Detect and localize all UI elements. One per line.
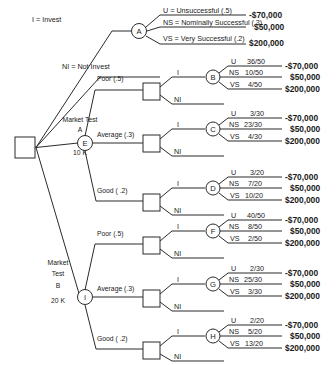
edge-poor-a-invest[interactable]: [160, 77, 205, 87]
payoff-C-u: -$70,000: [285, 113, 318, 123]
branch-label-invest-good-b: I: [177, 327, 179, 336]
branch-label-invest-poor-b: I: [177, 222, 179, 231]
survey-label-average-b: Average (.3): [97, 285, 134, 293]
outcome-key-H-vs: VS: [230, 339, 240, 348]
payoff-F-u: -$70,000: [285, 215, 318, 225]
payoff-A-vs: $200,000: [249, 38, 284, 48]
outcome-key-B-vs: VS: [230, 80, 240, 89]
outcome-frac-C-u: 3/30: [250, 109, 264, 118]
outcome-key-G-vs: VS: [230, 287, 240, 296]
edge-E-poor[interactable]: [85, 90, 143, 136]
payoff-B-ns: $50,000: [290, 72, 321, 82]
edge-A-ns[interactable]: [147, 27, 246, 31]
decision-node-average-b[interactable]: [143, 290, 160, 307]
payoff-G-ns: $50,000: [290, 279, 321, 289]
outcome-key-G-u: U: [231, 264, 236, 273]
payoff-A-ns: $50,000: [254, 22, 285, 32]
test-b-label-line1: Market: [48, 259, 69, 266]
outcome-frac-D-vs: 10/20: [245, 191, 263, 200]
outcome-key-C-u: U: [231, 109, 236, 118]
outcome-key-F-ns: NS: [229, 222, 239, 231]
outcome-key-H-ns: NS: [229, 327, 239, 336]
edge-I-good[interactable]: [85, 305, 143, 349]
payoff-G-vs: $200,000: [285, 291, 320, 301]
payoff-D-u: -$70,000: [285, 172, 318, 182]
outcome-key-B-u: U: [231, 57, 236, 66]
decision-tree-diagram: I = Invest A U = Unsuccessful (.5) NS = …: [0, 0, 336, 365]
outcome-frac-C-ns: 23/30: [244, 120, 262, 129]
test-b-label-line3: B: [56, 282, 61, 289]
decision-node-poor-b[interactable]: [143, 237, 160, 254]
outcome-key-C-vs: VS: [230, 132, 240, 141]
decision-node-average-a[interactable]: [143, 135, 160, 152]
legend-invest-label: I = Invest: [32, 15, 61, 24]
survey-label-poor-b: Poor (.5): [97, 230, 123, 238]
branch-label-invest-poor-a: I: [177, 68, 179, 77]
test-b-cost: 20 K: [51, 297, 65, 304]
edge-good-b-not-invest[interactable]: [160, 354, 224, 361]
outcome-frac-B-vs: 4/50: [248, 80, 262, 89]
test-a-label-line2: A: [78, 126, 83, 133]
outcome-key-D-ns: NS: [229, 179, 239, 188]
outcome-frac-H-ns: 5/20: [248, 327, 262, 336]
edge-average-a-invest[interactable]: [160, 129, 205, 139]
payoff-C-ns: $50,000: [290, 124, 321, 134]
payoff-C-vs: $200,000: [285, 136, 320, 146]
outcome-key-F-u: U: [231, 211, 236, 220]
decision-node-good-b[interactable]: [143, 342, 160, 359]
chance-node-D-letter: D: [210, 184, 216, 193]
edge-good-b-invest[interactable]: [160, 336, 205, 346]
branch-label-not-invest-average-a: NI: [174, 147, 181, 156]
payoff-F-vs: $200,000: [285, 238, 320, 248]
root-decision-node[interactable]: [15, 137, 35, 158]
edge-poor-a-not-invest[interactable]: [160, 95, 224, 104]
survey-label-average-a: Average (.3): [97, 131, 134, 139]
chance-node-I-letter: I: [84, 293, 86, 302]
payoff-D-ns: $50,000: [290, 183, 321, 193]
outcome-frac-F-vs: 2/50: [248, 234, 262, 243]
outcome-frac-G-ns: 25/30: [244, 275, 262, 284]
edge-I-poor[interactable]: [85, 244, 143, 290]
survey-label-good-b: Good ( .2): [97, 335, 128, 343]
edge-average-b-invest[interactable]: [160, 284, 205, 294]
branch-label-invest-average-b: I: [177, 275, 179, 284]
payoff-H-vs: $200,000: [285, 343, 320, 353]
branch-label-not-invest-good-a: NI: [174, 206, 181, 215]
outcome-key-B-ns: NS: [229, 68, 239, 77]
payoff-A-u: -$70,000: [249, 10, 282, 20]
test-a-label-line1: Market Test: [62, 116, 97, 123]
edge-good-a-not-invest[interactable]: [160, 206, 224, 215]
edge-good-a-invest[interactable]: [160, 188, 205, 198]
branch-label-not-invest-good-b: NI: [174, 352, 181, 361]
payoff-H-u: -$70,000: [285, 320, 318, 330]
payoff-F-ns: $50,000: [290, 226, 321, 236]
chance-node-F-letter: F: [211, 227, 216, 236]
edge-average-b-not-invest[interactable]: [160, 302, 224, 311]
outcome-frac-G-vs: 3/30: [248, 287, 262, 296]
outcome-frac-H-u: 2/20: [250, 316, 264, 325]
branch-label-not-invest-average-b: NI: [174, 302, 181, 311]
branch-label-invest-average-a: I: [177, 120, 179, 129]
edge-root-test-a[interactable]: [36, 143, 78, 148]
chance-node-C-letter: C: [210, 125, 216, 134]
outcome-frac-B-ns: 10/50: [245, 68, 263, 77]
branch-label-invest-good-a: I: [177, 179, 179, 188]
edge-poor-b-invest[interactable]: [160, 231, 205, 241]
chance-node-H-letter: H: [210, 332, 215, 341]
edge-poor-b-not-invest[interactable]: [160, 249, 224, 258]
outcome-key-C-ns: NS: [229, 120, 239, 129]
payoff-D-vs: $200,000: [285, 195, 320, 205]
payoff-H-ns: $50,000: [290, 331, 321, 341]
legend-not-invest-label: NI = Not Invest: [62, 62, 110, 71]
chance-node-E-letter: E: [82, 139, 87, 148]
outcome-frac-C-vs: 4/30: [248, 132, 262, 141]
chance-node-G-letter: G: [210, 280, 216, 289]
outcome-frac-H-vs: 13/20: [245, 339, 263, 348]
chance-node-B-letter: B: [210, 73, 215, 82]
survey-label-good-a: Good ( .2): [97, 187, 128, 195]
payoff-B-vs: $200,000: [285, 84, 320, 94]
decision-node-good-a[interactable]: [143, 194, 160, 211]
edge-average-a-not-invest[interactable]: [160, 147, 224, 156]
branch-label-not-invest-poor-b: NI: [174, 249, 181, 258]
decision-node-poor-a[interactable]: [143, 83, 160, 100]
